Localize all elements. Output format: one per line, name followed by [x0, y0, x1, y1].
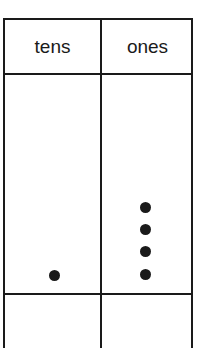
counter-dot	[140, 224, 151, 235]
counter-dot	[140, 269, 151, 280]
bottom-row-divider	[3, 293, 193, 295]
ones-header: ones	[102, 20, 193, 73]
tens-header: tens	[5, 20, 100, 73]
header-divider	[3, 73, 193, 75]
counter-dot	[49, 270, 60, 281]
counter-dot	[140, 202, 151, 213]
counter-dot	[140, 246, 151, 257]
